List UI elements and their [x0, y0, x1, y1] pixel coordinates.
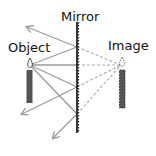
mirror-reflection-diagram: Mirror Object Image	[0, 0, 156, 156]
virtual-flame-icon	[120, 57, 125, 67]
mirror-label: Mirror	[61, 9, 100, 24]
object-candle	[27, 58, 33, 103]
flame-icon	[28, 58, 33, 68]
object-label: Object	[8, 40, 50, 55]
incident-rays	[30, 47, 77, 114]
image-label: Image	[108, 38, 149, 53]
mirror	[77, 22, 79, 133]
image-candle	[120, 57, 126, 108]
virtual-rays	[77, 47, 121, 114]
